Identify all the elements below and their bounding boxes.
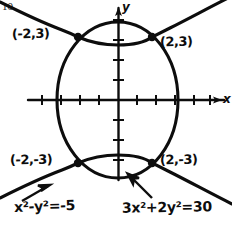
point-label-bottom-left: (-2,-3) <box>10 152 52 168</box>
y-axis-label: y <box>122 0 130 14</box>
x-axis-label: x <box>223 92 231 106</box>
point-bottom-left <box>74 159 82 167</box>
point-label-top-left: (-2,3) <box>12 26 50 42</box>
point-bottom-right <box>148 159 156 167</box>
equation-label-hyperbola: x²-y²=-5 <box>14 197 76 215</box>
equation-label-ellipse: 3x²+2y²=30 <box>122 198 212 216</box>
point-label-bottom-right: (2,-3) <box>160 152 198 168</box>
ellipse-leader-arrow <box>128 174 153 199</box>
point-top-left <box>74 33 82 41</box>
point-label-top-right: (2,3) <box>160 34 193 50</box>
point-top-right <box>148 33 156 41</box>
